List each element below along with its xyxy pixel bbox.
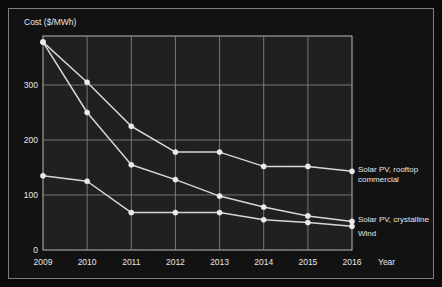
- y-axis-caption: Cost ($/MWh): [24, 17, 77, 27]
- y-tick-200: 200: [24, 135, 38, 145]
- data-point: [349, 224, 354, 229]
- data-point: [261, 217, 266, 222]
- data-point: [217, 210, 222, 215]
- data-point: [40, 173, 45, 178]
- x-tick-2011: 2011: [122, 257, 141, 267]
- series-label-wind: Wind: [358, 229, 376, 238]
- y-tick-300: 300: [24, 80, 38, 90]
- data-point: [305, 213, 310, 218]
- data-point: [173, 177, 178, 182]
- data-point: [261, 205, 266, 210]
- data-point: [173, 210, 178, 215]
- data-point: [40, 40, 45, 45]
- data-point: [85, 110, 90, 115]
- data-point: [305, 164, 310, 169]
- data-point: [261, 164, 266, 169]
- series-label-rooftop-line1: Solar PV, rooftop: [358, 165, 419, 174]
- data-point: [85, 80, 90, 85]
- x-tick-2010: 2010: [78, 257, 97, 267]
- data-point: [129, 162, 134, 167]
- line-chart: Cost ($/MWh) 300 200 100 0 2009 2010 201…: [0, 0, 442, 287]
- data-point: [349, 169, 354, 174]
- x-tick-2013: 2013: [210, 257, 229, 267]
- x-tick-2012: 2012: [166, 257, 185, 267]
- x-axis-caption: Year: [378, 257, 395, 267]
- data-point: [85, 179, 90, 184]
- data-point: [129, 210, 134, 215]
- x-tick-2015: 2015: [298, 257, 317, 267]
- data-point: [129, 124, 134, 129]
- chart-screenshot: Cost ($/MWh) 300 200 100 0 2009 2010 201…: [0, 0, 442, 287]
- y-tick-0: 0: [33, 245, 38, 255]
- y-tick-100: 100: [24, 190, 38, 200]
- data-point: [217, 150, 222, 155]
- data-point: [305, 220, 310, 225]
- series-label-crystalline: Solar PV, crystalline: [358, 215, 429, 224]
- x-tick-2014: 2014: [254, 257, 273, 267]
- data-point: [349, 219, 354, 224]
- x-tick-2009: 2009: [34, 257, 53, 267]
- data-point: [173, 150, 178, 155]
- series-label-rooftop-line2: commercial: [358, 175, 399, 184]
- data-point: [217, 194, 222, 199]
- x-tick-2016: 2016: [343, 257, 362, 267]
- plot-area: [43, 36, 352, 250]
